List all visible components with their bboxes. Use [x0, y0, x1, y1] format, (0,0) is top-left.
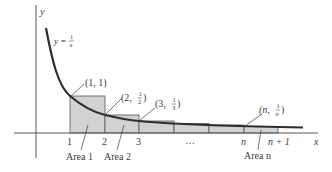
equation-denominator: x	[69, 41, 73, 48]
point-3-num: 1	[173, 96, 176, 103]
area-label-1: Area 1	[66, 151, 93, 162]
point-n-suffix: )	[281, 104, 284, 116]
equation-numerator: 1	[70, 33, 73, 40]
tick-label-ellipsis: …	[185, 135, 195, 146]
point-3-prefix: (3,	[155, 98, 166, 110]
point-2-suffix: )	[143, 92, 146, 104]
area-label-n: Area n	[244, 150, 271, 161]
tick-label-1: 1	[67, 136, 72, 147]
x-axis-label: x	[313, 136, 319, 147]
equation-prefix: y =	[53, 36, 66, 46]
leader-point-1	[70, 84, 84, 97]
y-axis-label: y	[39, 6, 45, 17]
point-3-suffix: )	[177, 98, 180, 110]
point-2-prefix: (2,	[121, 92, 132, 104]
point-n-num: 1	[277, 102, 280, 109]
point-n-prefix: (n,	[259, 104, 270, 116]
tick-label-n: n	[241, 136, 246, 147]
leader-point-2	[106, 98, 122, 114]
point-label-1: (1, 1)	[85, 77, 107, 89]
leader-point-3	[140, 108, 155, 120]
leader-point-n	[245, 114, 262, 126]
point-2-den: 2	[138, 98, 141, 105]
point-n-den: n	[276, 110, 279, 117]
harmonic-area-diagram: y x y = 1 x (1, 1) (2, 1 2 ) (3, 1 3 ) (…	[0, 0, 332, 172]
curve-equation-label: y = 1 x	[53, 33, 74, 48]
tick-label-n-plus-1: n + 1	[268, 136, 290, 147]
point-label-2: (2, 1 2 )	[121, 90, 146, 105]
point-3-den: 3	[172, 104, 175, 111]
point-label-n: (n, 1 n )	[259, 102, 284, 117]
tick-label-2: 2	[102, 136, 107, 147]
area-label-2: Area 2	[104, 151, 131, 162]
tick-label-3: 3	[136, 136, 141, 147]
point-2-num: 1	[139, 90, 142, 97]
point-label-3: (3, 1 3 )	[155, 96, 180, 111]
